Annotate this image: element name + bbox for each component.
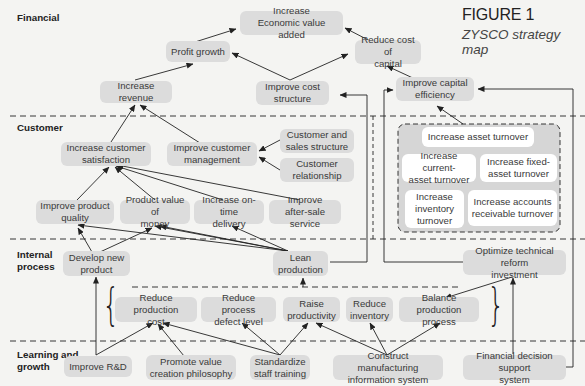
figure-label: FIGURE 1 <box>462 6 534 24</box>
node-lean-production: Lean production <box>273 251 328 276</box>
node-improve-customer-management: Improve customer management <box>167 142 257 166</box>
node-fixed-asset-turnover: Increase fixed- asset turnover <box>480 154 557 182</box>
node-optimize-technical-reform: Optimize technical reform investment <box>463 250 566 275</box>
perspective-internal-process: Internal process <box>17 249 55 273</box>
figure-title: ZYSCO strategy map <box>462 27 585 57</box>
node-improve-product-quality: Improve product quality <box>36 200 114 224</box>
node-balance-production: Balance production process <box>399 297 479 322</box>
perspective-financial: Financial <box>17 12 59 24</box>
node-improve-rd: Improve R&D <box>64 356 132 377</box>
node-reduce-production-cost: Reduce production cost <box>115 297 197 322</box>
node-improve-capital-efficiency: Improve capital efficiency <box>396 77 474 101</box>
node-inventory-turnover: Increase inventory turnover <box>405 190 464 228</box>
node-current-asset-turnover: Increase current- asset turnover <box>402 154 476 182</box>
node-increase-revenue: Increase revenue <box>100 81 172 103</box>
node-product-value-of-money: Product value of money <box>120 200 190 224</box>
node-customer-relationship: Customer relationship <box>280 158 354 182</box>
node-reduce-inventory: Reduce inventory <box>346 297 393 322</box>
node-promote-value-creation: Promote value creation philosophy <box>146 355 236 380</box>
node-improve-after-sale-service: Improve after-sale service <box>269 200 341 224</box>
node-profit-growth: Profit growth <box>166 41 230 62</box>
node-construct-mis: Construct manufacturing information syst… <box>333 355 443 380</box>
node-accounts-receivable-turnover: Increase accounts receivable turnover <box>468 190 557 226</box>
perspective-customer: Customer <box>17 122 63 134</box>
node-customer-sales-structure: Customer and sales structure <box>280 129 354 153</box>
node-increase-eva: Increase Economic value added <box>240 11 343 35</box>
node-improve-cost-structure: Improve cost structure <box>256 81 329 105</box>
node-develop-new-product: Develop new product <box>63 251 130 276</box>
node-reduce-cost-of-capital: Reduce cost of capital <box>355 40 421 64</box>
node-increase-customer-satisfaction: Increase customer satisfaction <box>61 142 151 166</box>
node-raise-productivity: Raise productivity <box>283 297 340 322</box>
node-standardize-training: Standardize staff training <box>250 355 310 380</box>
right-brace-icon: } <box>488 283 505 327</box>
node-reduce-process-defect: Reduce process defect level <box>201 297 276 322</box>
node-increase-on-time-delivery: Increase on-time delivery <box>194 200 264 224</box>
node-financial-decision-support: Financial decision support system <box>463 355 566 380</box>
node-increase-asset-turnover: Increase asset turnover <box>422 127 534 147</box>
